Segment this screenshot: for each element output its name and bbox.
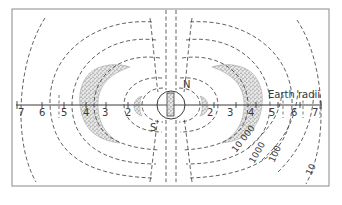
tick-label: 5	[61, 107, 67, 118]
contour-label-100: 100	[267, 144, 283, 164]
tick-label: 4	[248, 107, 254, 118]
tick-label: 2	[125, 107, 131, 118]
tick-label: 5	[269, 107, 275, 118]
tick-label: 3	[227, 107, 233, 118]
south-pole-label: S	[150, 122, 156, 133]
tick-label: 2	[207, 107, 213, 118]
axis-title: Earth radii	[268, 89, 320, 100]
tick-label: 6	[39, 107, 45, 118]
north-pole-label: N	[183, 79, 190, 90]
magnet-bar-icon	[167, 93, 174, 116]
contour-label-1000: 1000	[247, 140, 267, 165]
outer-radiation-belt-left	[80, 65, 130, 143]
earth-globe	[157, 91, 185, 119]
tick-label: 4	[83, 107, 89, 118]
inner-radiation-belt-left	[134, 96, 142, 116]
diagram-canvas: N S Earth radii 7 6 5 4 3 2 2 3 4 5 6 7 …	[0, 0, 342, 205]
right-tick-labels: 2 3 4 5 6 7	[207, 107, 318, 118]
contour-label-10: 10	[304, 162, 318, 177]
left-tick-labels: 7 6 5 4 3 2	[18, 107, 131, 118]
tick-label: 3	[102, 107, 108, 118]
tick-label: 7	[312, 107, 318, 118]
tick-label: 6	[291, 107, 297, 118]
tick-label: 7	[18, 107, 24, 118]
